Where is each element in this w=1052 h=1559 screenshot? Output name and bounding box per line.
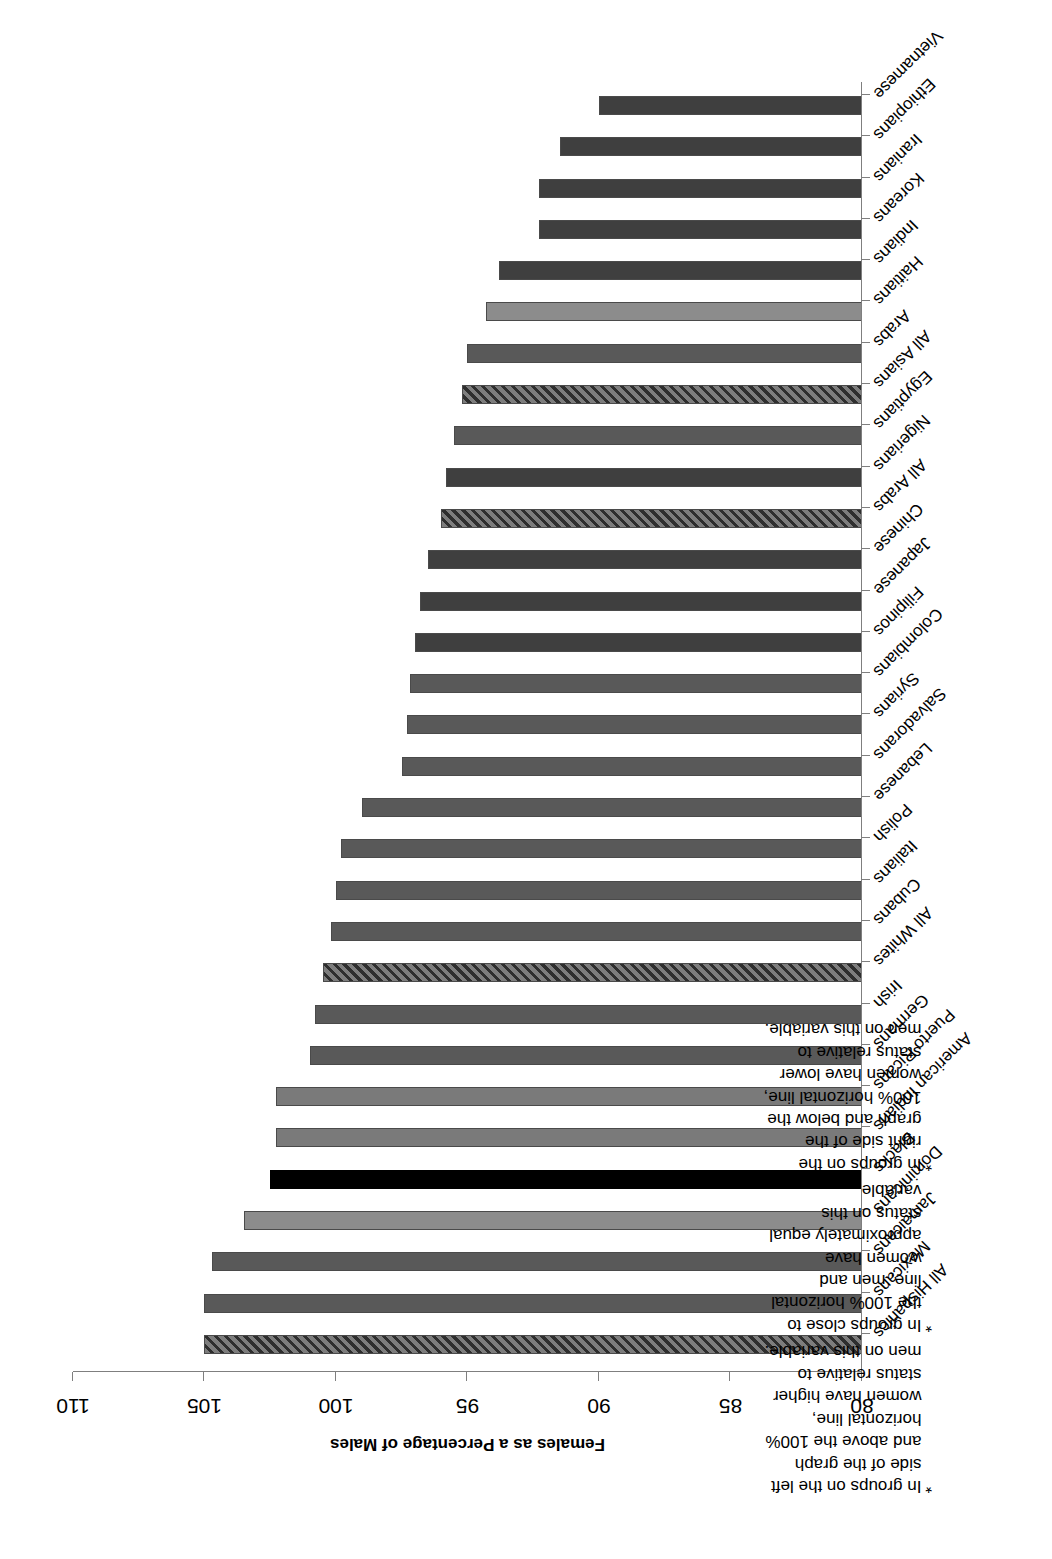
note-bullet-marker: * — [925, 1475, 932, 1497]
note-text: In groups close to the 100% horizontal l… — [762, 1179, 921, 1336]
annotation-note: *In groups on the right side of the grap… — [762, 1018, 932, 1175]
rotated-figure: 11010510095908580 Females as a Percentag… — [0, 0, 1052, 1559]
annotation-notes: *In groups on the left side of the graph… — [762, 1014, 932, 1497]
annotation-note: *In groups on the left side of the graph… — [762, 1340, 932, 1497]
note-bullet-marker: * — [925, 1152, 932, 1174]
note-bullet-marker: * — [925, 1314, 932, 1336]
note-text: In groups on the left side of the graph … — [762, 1340, 921, 1497]
note-text: In groups on the right side of the graph… — [762, 1018, 921, 1175]
annotation-note: *In groups close to the 100% horizontal … — [762, 1179, 932, 1336]
